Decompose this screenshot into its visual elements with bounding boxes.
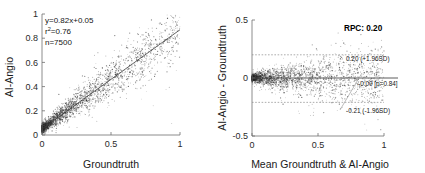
data-point	[120, 63, 121, 64]
annotation-r-squared: r2=0.76	[45, 26, 72, 36]
data-point	[176, 50, 177, 51]
data-point	[99, 74, 100, 75]
data-point	[263, 86, 264, 87]
data-point	[372, 71, 373, 72]
data-point	[286, 74, 287, 75]
data-point	[63, 103, 64, 104]
data-point	[76, 106, 77, 107]
data-point	[166, 52, 167, 53]
data-point	[316, 72, 317, 73]
data-point	[299, 84, 300, 85]
data-point	[291, 71, 292, 72]
data-point	[329, 64, 330, 65]
data-point	[65, 115, 66, 116]
data-point	[317, 88, 318, 89]
x-tick-label: 0.5	[105, 139, 118, 149]
data-point	[159, 43, 160, 44]
data-point	[149, 71, 150, 72]
data-point	[105, 76, 106, 77]
data-point	[112, 69, 113, 70]
data-point	[278, 88, 279, 89]
y-tick-label: -0.5	[232, 131, 248, 141]
data-point	[84, 103, 85, 104]
data-point	[148, 33, 149, 34]
data-point	[120, 61, 121, 62]
data-point	[281, 72, 282, 73]
data-point	[74, 99, 75, 100]
data-point	[76, 89, 77, 90]
data-point	[60, 123, 61, 124]
data-point	[105, 78, 106, 79]
data-point	[105, 81, 106, 82]
data-point	[92, 83, 93, 84]
data-point	[357, 94, 358, 95]
data-point	[295, 69, 296, 70]
data-point	[108, 96, 109, 97]
annotation-bias: -0.00 [p=0.84]	[358, 80, 398, 88]
data-point	[100, 102, 101, 103]
data-point	[264, 80, 265, 81]
data-point	[279, 77, 280, 78]
data-point	[329, 73, 330, 74]
data-point	[88, 115, 89, 116]
data-point	[43, 125, 44, 126]
data-point	[100, 98, 101, 99]
data-point	[145, 40, 146, 41]
data-point	[296, 72, 297, 73]
data-point	[373, 64, 374, 65]
data-point	[380, 90, 381, 91]
data-point	[348, 85, 349, 86]
data-point	[332, 93, 333, 94]
data-point	[294, 70, 295, 71]
data-point	[292, 87, 293, 88]
data-point	[100, 89, 101, 90]
data-point	[306, 88, 307, 89]
data-point	[79, 98, 80, 99]
data-point	[297, 94, 298, 95]
data-point	[56, 124, 57, 125]
data-point	[326, 94, 327, 95]
data-point	[380, 87, 381, 88]
data-point	[336, 65, 337, 66]
data-point	[359, 63, 360, 64]
data-point	[339, 59, 340, 60]
data-point	[90, 105, 91, 106]
data-point	[88, 100, 89, 101]
data-point	[106, 86, 107, 87]
data-point	[382, 94, 383, 95]
data-point	[126, 98, 127, 99]
r-squared-value: =0.76	[51, 27, 72, 36]
data-point	[338, 57, 339, 58]
data-point	[131, 67, 132, 68]
data-point	[344, 62, 345, 63]
data-point	[92, 101, 93, 102]
data-point	[77, 105, 78, 106]
data-point	[100, 72, 101, 73]
data-point	[109, 75, 110, 76]
data-point	[330, 65, 331, 66]
data-point	[346, 62, 347, 63]
data-point	[119, 50, 120, 51]
data-point	[295, 91, 296, 92]
data-point	[330, 67, 331, 68]
data-point	[267, 74, 268, 75]
data-point	[162, 32, 163, 33]
data-point	[131, 58, 132, 59]
data-point	[335, 91, 336, 92]
data-point	[151, 19, 152, 20]
data-point	[277, 84, 278, 85]
data-point	[284, 87, 285, 88]
data-point	[315, 79, 316, 80]
x-tick-label: 0	[249, 140, 254, 150]
data-point	[342, 88, 343, 89]
data-point	[132, 67, 133, 68]
data-point	[115, 70, 116, 71]
data-point	[83, 92, 84, 93]
data-point	[105, 70, 106, 71]
data-point	[146, 60, 147, 61]
data-point	[361, 94, 362, 95]
data-point	[374, 91, 375, 92]
data-point	[102, 89, 103, 90]
data-point	[98, 90, 99, 91]
data-point	[171, 50, 172, 51]
